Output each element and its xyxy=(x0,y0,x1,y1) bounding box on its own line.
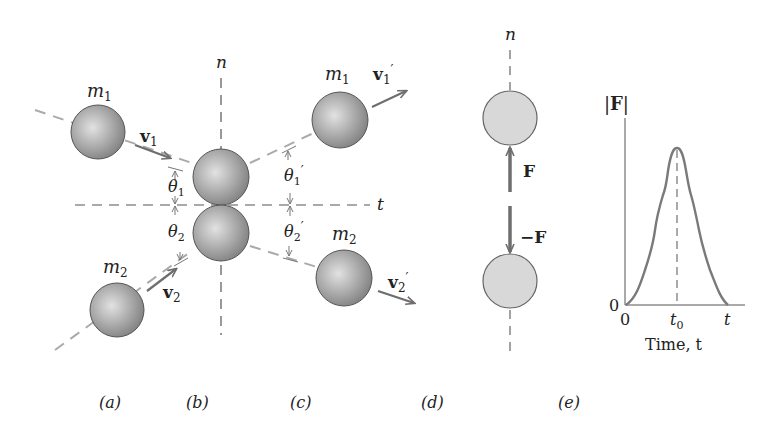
x-origin-label: 0 xyxy=(620,310,630,329)
path-m2-out xyxy=(250,246,320,268)
x-axis-title: Time, t xyxy=(645,335,703,354)
collision-figure: n t m1 v1 m2 v2 θ1 θ2 θ1′ θ2′ m1 xyxy=(0,0,775,428)
caption-c: (c) xyxy=(290,393,311,412)
velocity-arrow-v2-prime xyxy=(378,291,414,303)
velocity2-before-label: v2 xyxy=(162,282,181,305)
normal-axis-label: n xyxy=(216,52,227,72)
theta2-label: θ2 xyxy=(168,222,185,244)
sphere-m1-before xyxy=(71,105,125,159)
impulse-graph: |F| 0 0 t0 t Time, t xyxy=(604,93,745,354)
caption-d: (d) xyxy=(421,393,444,412)
theta1-label: θ1 xyxy=(168,177,185,199)
force-normal-axis-label: n xyxy=(505,24,516,44)
reaction-force-label: −F xyxy=(520,227,546,247)
sphere-m2-contact xyxy=(193,205,249,261)
sphere-m2-before xyxy=(90,283,144,337)
mass2-after-label: m2 xyxy=(332,223,357,247)
sphere-m1-after xyxy=(312,92,368,148)
force-diagram: n F −F xyxy=(483,24,546,355)
mass1-before-label: m1 xyxy=(87,80,112,104)
theta2-prime-label: θ2′ xyxy=(284,219,304,244)
y-axis-label: |F| xyxy=(604,93,629,115)
velocity1-after-label: v1′ xyxy=(372,62,394,87)
disc-lower xyxy=(483,254,537,308)
velocity2-after-label: v2′ xyxy=(387,270,409,295)
sphere-m2-after xyxy=(316,250,372,306)
panel-captions: (a) (b) (c) (d) (e) xyxy=(99,393,580,412)
theta1-prime-label: θ1′ xyxy=(284,163,304,188)
velocity-arrow-v1-prime xyxy=(372,91,406,107)
path-m1-out xyxy=(250,130,320,163)
t-end-label: t xyxy=(724,310,731,329)
caption-b: (b) xyxy=(186,393,209,412)
mass1-after-label: m1 xyxy=(325,63,350,87)
velocity1-before-label: v1 xyxy=(139,126,158,149)
collision-diagram: n t m1 v1 m2 v2 θ1 θ2 θ1′ θ2′ m1 xyxy=(35,52,414,350)
force-label: F xyxy=(523,161,535,181)
y-origin-label: 0 xyxy=(609,296,619,315)
disc-upper xyxy=(483,91,537,145)
mass2-before-label: m2 xyxy=(103,256,128,280)
caption-a: (a) xyxy=(99,393,121,412)
tangent-axis-label: t xyxy=(377,194,384,214)
sphere-m1-contact xyxy=(193,149,249,205)
caption-e: (e) xyxy=(558,393,580,412)
t0-label: t0 xyxy=(670,310,683,332)
